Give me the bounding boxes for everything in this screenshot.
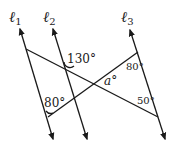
geometry-diagram: ℓ1 ℓ2 ℓ3 130° 80° a° 80° 50°: [0, 0, 170, 150]
label-l2: ℓ2: [43, 8, 56, 27]
angle-label-130: 130°: [67, 52, 96, 66]
angle-arc-80-bottom: [46, 111, 53, 113]
angle-label-50: 50°: [137, 95, 155, 106]
line-l3: [130, 30, 165, 139]
angle-label-a: a°: [104, 74, 117, 88]
line-l2: [53, 29, 87, 139]
label-l1: ℓ1: [9, 8, 22, 27]
angle-label-80-bottom: 80°: [44, 96, 65, 110]
line-l1: [20, 29, 53, 139]
label-l3: ℓ3: [121, 8, 134, 27]
angle-label-80-top: 80°: [126, 61, 144, 72]
